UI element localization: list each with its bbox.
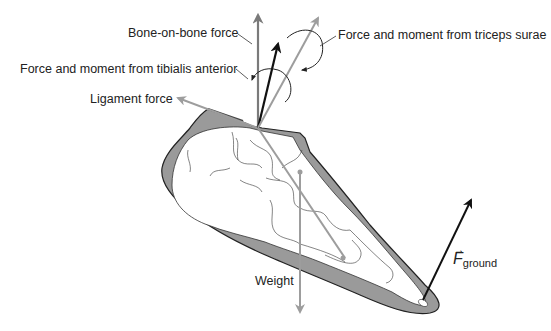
tibialis-force-arrow	[258, 44, 278, 128]
label-ligament-force: Ligament force	[90, 93, 173, 106]
ground-force-subscript: ground	[463, 257, 497, 269]
label-tibialis-anterior: Force and moment from tibialis anterior	[20, 63, 237, 76]
leader-bone-on-bone	[238, 34, 252, 44]
triceps-force-arrow	[258, 18, 318, 128]
vector-mark: →	[454, 244, 464, 255]
label-ground-force: → Fground	[453, 250, 497, 269]
leader-tibialis	[236, 69, 248, 79]
label-triceps-surae: Force and moment from triceps surae	[338, 29, 546, 42]
label-weight: Weight	[255, 275, 294, 288]
axis-end-point	[341, 256, 346, 261]
label-bone-on-bone-force: Bone-on-bone force	[128, 27, 239, 40]
leader-triceps	[320, 36, 336, 46]
